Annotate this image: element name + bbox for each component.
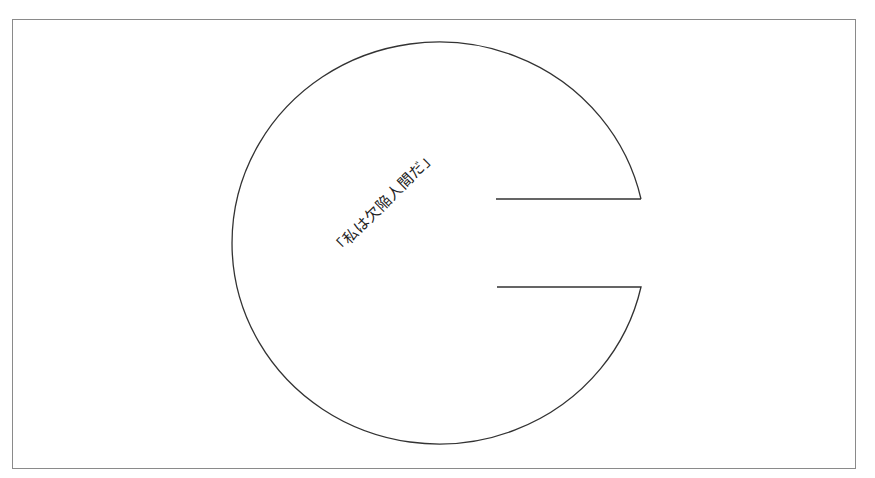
- pacman-circle-shape: [0, 0, 875, 478]
